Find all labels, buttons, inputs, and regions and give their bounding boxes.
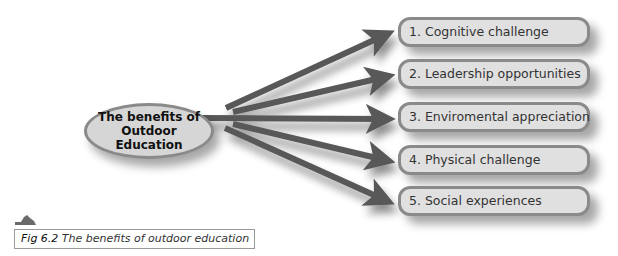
benefit-node-3: 3. Enviromental appreciation xyxy=(398,102,590,132)
center-node-line2: Outdoor Education xyxy=(87,124,211,152)
benefit-node-1: 1. Cognitive challenge xyxy=(398,17,590,47)
center-node: The benefits of Outdoor Education xyxy=(84,103,214,159)
figure-tab-icon xyxy=(15,212,37,226)
benefit-node-2: 2. Leadership opportunities xyxy=(398,59,590,89)
arrow-3 xyxy=(200,118,385,119)
benefit-node-5: 5. Social experiences xyxy=(398,186,590,216)
center-node-line1: The benefits of xyxy=(98,110,200,124)
figure-number: Fig 6.2 xyxy=(21,232,58,245)
figure-caption: Fig 6.2 The benefits of outdoor educatio… xyxy=(14,229,255,249)
benefit-node-4: 4. Physical challenge xyxy=(398,145,590,175)
figure-caption-text: The benefits of outdoor education xyxy=(58,232,249,245)
